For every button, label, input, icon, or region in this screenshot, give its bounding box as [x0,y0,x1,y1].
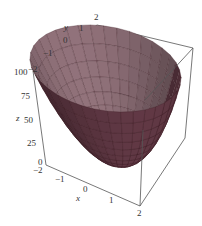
x-tick-0: 0 [83,184,88,194]
x-tick--2: −2 [33,165,43,175]
z-axis-label: z [15,113,20,123]
x-tick-1: 1 [109,195,114,205]
z-tick-75: 75 [21,91,31,101]
paraboloid-surface [30,25,181,168]
z-tick-50: 50 [24,115,34,125]
y-axis-label: y [63,22,68,32]
y-tick-1: 1 [79,23,84,33]
x-axis-label: x [75,193,80,203]
z-axis: 100 75 50 25 0 z [14,67,43,167]
y-tick-2: 2 [94,12,99,22]
y-tick-0: 0 [63,35,68,45]
y-tick--1: −1 [43,48,53,58]
x-axis: −2 −1 0 1 2 x [33,165,142,218]
z-tick-100: 100 [14,67,28,77]
paraboloid-plot: −2 −1 0 1 2 y 100 75 50 25 0 z −2 −1 0 1… [0,0,202,226]
y-tick--2: −2 [28,64,38,74]
x-tick-2: 2 [137,208,142,218]
z-tick-25: 25 [27,138,37,148]
x-tick--1: −1 [55,174,65,184]
